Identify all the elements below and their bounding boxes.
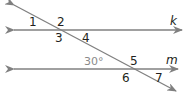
angle-2-label: 2 [57,15,65,29]
angle-3-label: 3 [55,31,63,45]
angle-1-label: 1 [29,15,37,29]
transversal [14,5,176,91]
line-m-label: m [166,53,178,67]
angle-7-label: 7 [155,71,163,85]
parallel-lines-diagram: 1 2 3 4 5 6 7 30° k m [0,0,190,96]
angle-4-label: 4 [82,31,90,45]
line-k-label: k [170,14,178,28]
given-angle-label: 30° [84,55,104,68]
angle-6-label: 6 [122,71,130,85]
angle-5-label: 5 [130,54,138,68]
